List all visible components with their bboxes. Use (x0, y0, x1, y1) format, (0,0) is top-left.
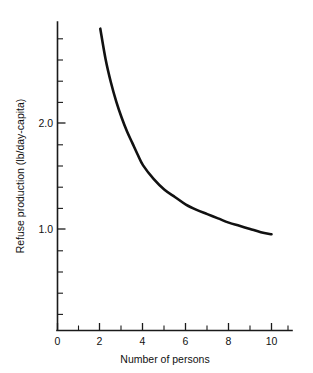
y-axis-title: Refuse production (lb/day-capita) (14, 99, 26, 254)
y-tick-label-2-0: 2.0 (38, 117, 53, 129)
x-axis-title: Number of persons (120, 353, 209, 365)
y-tick-label-1-0: 1.0 (38, 223, 53, 235)
data-series-line (100, 29, 271, 235)
chart-figure: 2.0 1.0 0 2 4 6 8 10 Number of persons R… (0, 0, 313, 373)
y-axis-major-ticks (58, 123, 66, 229)
x-tick-label-10: 10 (266, 335, 278, 347)
x-tick-label-6: 6 (183, 335, 189, 347)
x-tick-label-8: 8 (226, 335, 232, 347)
x-axis-tick-labels: 0 2 4 6 8 10 (55, 335, 278, 347)
y-axis-minor-ticks (58, 39, 64, 315)
line-chart: 2.0 1.0 0 2 4 6 8 10 Number of persons R… (0, 0, 313, 373)
x-tick-label-0: 0 (55, 335, 61, 347)
x-tick-label-4: 4 (140, 335, 146, 347)
x-tick-label-2: 2 (97, 335, 103, 347)
y-axis-tick-labels: 2.0 1.0 (38, 117, 53, 235)
axis-lines (57, 22, 292, 331)
